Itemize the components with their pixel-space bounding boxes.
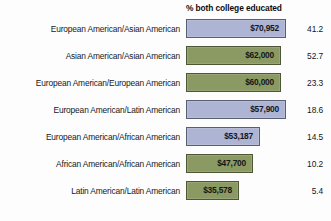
bar: $53,187 <box>186 127 260 146</box>
chart-row: Latin American/Latin American$35,5785.4 <box>0 181 331 208</box>
chart-row: African American/African American$47,700… <box>0 154 331 181</box>
bar: $62,000 <box>186 46 281 65</box>
row-category-label: Latin American/Latin American <box>0 186 180 196</box>
bar-value-label: $35,578 <box>203 182 232 199</box>
bar: $60,000 <box>186 73 281 92</box>
row-pct-college-educated: 18.6 <box>296 105 323 115</box>
bar-value-label: $47,700 <box>217 155 246 172</box>
bar: $47,700 <box>186 154 253 173</box>
chart-row: European American/European American$60,0… <box>0 73 331 100</box>
column-header-pct-college-educated: % both college educated <box>186 3 331 16</box>
bar: $70,952 <box>186 19 286 38</box>
bar-value-label: $57,900 <box>250 101 279 118</box>
row-category-label: African American/African American <box>0 159 180 169</box>
bar-chart: % both college educated European America… <box>0 0 331 221</box>
row-category-label: European American/Latin American <box>0 105 180 115</box>
row-pct-college-educated: 10.2 <box>296 159 323 169</box>
bar-value-label: $60,000 <box>245 74 274 91</box>
row-category-label: European American/European American <box>0 78 180 88</box>
chart-row: European American/African American$53,18… <box>0 127 331 154</box>
row-pct-college-educated: 41.2 <box>296 24 323 34</box>
row-pct-college-educated: 23.3 <box>296 78 323 88</box>
row-category-label: European American/African American <box>0 132 180 142</box>
chart-rows: European American/Asian American$70,9524… <box>0 19 331 208</box>
row-pct-college-educated: 14.5 <box>296 132 323 142</box>
row-category-label: Asian American/Asian American <box>0 51 180 61</box>
bar: $35,578 <box>186 181 239 200</box>
chart-row: European American/Asian American$70,9524… <box>0 19 331 46</box>
bar-value-label: $53,187 <box>224 128 253 145</box>
bar: $57,900 <box>186 100 286 119</box>
row-category-label: European American/Asian American <box>0 24 180 34</box>
chart-row: Asian American/Asian American$62,00052.7 <box>0 46 331 73</box>
bar-value-label: $62,000 <box>245 47 274 64</box>
bar-value-label: $70,952 <box>250 20 279 37</box>
row-pct-college-educated: 5.4 <box>296 186 323 196</box>
chart-row: European American/Latin American$57,9001… <box>0 100 331 127</box>
row-pct-college-educated: 52.7 <box>296 51 323 61</box>
